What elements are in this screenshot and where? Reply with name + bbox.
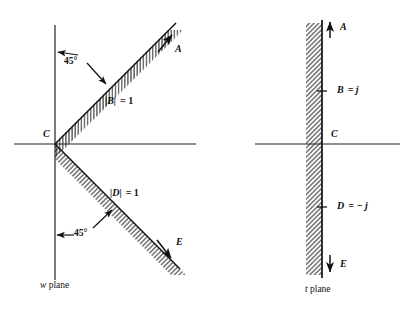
t-plane-point-b-value: = j: [348, 84, 359, 95]
t-plane-point-d-value: = − j: [348, 200, 368, 211]
t-plane-caption-text: plane: [308, 284, 331, 294]
w-plane-lower-boundary-value: = 1: [126, 187, 139, 198]
w-plane-caption: w plane: [40, 281, 69, 291]
w-plane-lower-boundary-label: |D|= 1: [110, 188, 139, 198]
w-plane-point-c-label: C: [43, 129, 50, 139]
w-plane-angle-top-label: 45°: [64, 57, 77, 67]
w-plane-point-e-label: E: [176, 237, 183, 247]
t-plane-point-c-label: C: [331, 129, 338, 139]
w-plane-angle-top-leader-ray: [87, 63, 106, 84]
t-plane-point-b-label: B= j: [337, 85, 359, 95]
t-plane-point-d-symbol: D: [337, 200, 344, 211]
w-plane-angle-bottom-label: 45°: [74, 229, 87, 239]
w-plane-angle-bottom-leader-ray: [93, 210, 112, 228]
w-plane-caption-text: plane: [46, 280, 69, 290]
w-plane-lower-boundary-modulus: |D|: [110, 187, 122, 198]
w-plane-point-a-label: A: [175, 44, 182, 54]
w-plane-upper-boundary-value: = 1: [120, 95, 133, 106]
t-plane-hatch-band: [306, 23, 322, 275]
t-plane-caption: t plane: [305, 285, 331, 295]
t-plane-point-a-label: A: [340, 22, 347, 32]
t-plane-point-d-label: D= − j: [337, 201, 368, 211]
w-plane-panel: [14, 23, 196, 280]
w-plane-angle-top-leader-axis: [58, 52, 78, 55]
w-plane-lower-boundary-ray: [55, 144, 180, 269]
w-plane-upper-hatch-band: [55, 30, 183, 158]
w-plane-upper-boundary-ray: [55, 23, 176, 144]
t-plane-point-b-symbol: B: [337, 84, 344, 95]
w-plane-upper-boundary-modulus: |B|: [105, 95, 116, 106]
t-plane-panel: [255, 20, 400, 278]
complex-plane-mapping-figure: [0, 0, 413, 321]
t-plane-point-e-label: E: [340, 259, 347, 269]
w-plane-upper-boundary-label: |B|= 1: [105, 96, 133, 106]
